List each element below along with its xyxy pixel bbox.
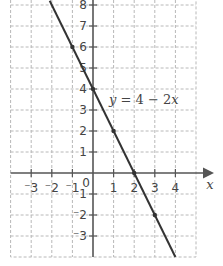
y-tick-label: 3 xyxy=(79,103,87,117)
y-tick-label: 1 xyxy=(79,145,87,159)
y-tick-label: 4 xyxy=(79,82,87,96)
x-tick-label: ⁻2 xyxy=(45,181,59,195)
x-tick-label: 1 xyxy=(110,181,118,195)
coordinate-graph: ⁻3 ⁻2 ⁻1 0 1 2 3 4 x 8 7 6 5 4 3 2 1 ⁻1 … xyxy=(0,0,223,266)
equation-label: y = 4 − 2x xyxy=(108,92,179,107)
y-tick-label: ⁻1 xyxy=(73,187,87,201)
plot-line-y-equals-4-minus-2x xyxy=(50,1,176,257)
y-tick-label: 6 xyxy=(79,40,87,54)
y-tick-label: 7 xyxy=(79,19,87,33)
x-tick-label: 2 xyxy=(130,181,138,195)
y-tick-label: ⁻3 xyxy=(73,229,87,243)
equation-middle: = 4 − 2 xyxy=(116,92,171,107)
equation-x: x xyxy=(171,92,179,107)
x-tick-label: 3 xyxy=(151,181,159,195)
x-tick-label: 4 xyxy=(172,181,180,195)
x-axis-label: x xyxy=(206,177,214,192)
y-tick-label: 8 xyxy=(79,0,87,12)
x-tick-label: ⁻3 xyxy=(24,181,38,195)
y-tick-label: ⁻2 xyxy=(73,208,87,222)
y-tick-label: 2 xyxy=(79,124,87,138)
grid-lines xyxy=(11,0,196,257)
grid-border xyxy=(11,0,196,257)
